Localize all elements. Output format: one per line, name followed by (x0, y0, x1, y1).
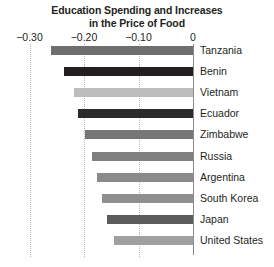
bar-row: Russia (0, 151, 274, 163)
bar-category-label: United States (200, 234, 263, 246)
chart-title: Education Spending and Increases in the … (0, 4, 274, 29)
bar-category-label: Argentina (200, 171, 245, 183)
bar-category-label: South Korea (200, 192, 258, 204)
bar-row: Benin (0, 66, 274, 78)
bar (78, 109, 193, 118)
bar-chart-figure: Education Spending and Increases in the … (0, 0, 274, 267)
bar-category-label: Vietnam (200, 86, 238, 98)
bar-row: Japan (0, 214, 274, 226)
bar-category-label: Tanzania (200, 44, 242, 56)
bar (97, 173, 193, 182)
bar-category-label: Zimbabwe (200, 128, 248, 140)
x-tick-label: 0 (190, 31, 196, 44)
bar-row: Zimbabwe (0, 129, 274, 141)
bar (64, 67, 193, 76)
bar-row: Vietnam (0, 87, 274, 99)
x-tick-label: −0.30 (16, 31, 43, 44)
bar (51, 46, 193, 55)
bar-row: Ecuador (0, 108, 274, 120)
x-tick-label: −0.20 (71, 31, 98, 44)
plot-area: TanzaniaBeninVietnamEcuadorZimbabweRussi… (0, 44, 274, 267)
bar-category-label: Ecuador (200, 107, 239, 119)
bar (114, 236, 193, 245)
bar (92, 152, 193, 161)
bar (102, 194, 193, 203)
bar-row: South Korea (0, 193, 274, 205)
bar-row: Tanzania (0, 45, 274, 57)
x-axis-tick-labels: −0.30−0.20−0.100 (0, 31, 274, 44)
bar-category-label: Benin (200, 65, 227, 77)
bar (107, 215, 193, 224)
bar-row: United States (0, 235, 274, 247)
chart-title-line-1: Education Spending and Increases (0, 4, 274, 17)
bar-category-label: Japan (200, 213, 229, 225)
bar (74, 88, 193, 97)
chart-title-line-2: in the Price of Food (0, 17, 274, 30)
bar-category-label: Russia (200, 150, 232, 162)
x-tick-label: −0.10 (125, 31, 152, 44)
bar (85, 130, 193, 139)
bar-row: Argentina (0, 172, 274, 184)
